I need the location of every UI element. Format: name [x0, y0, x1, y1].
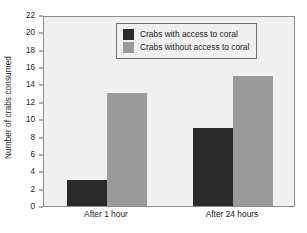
y-axis-tick-label: 12: [26, 99, 35, 107]
y-axis-tick-label: 18: [26, 47, 35, 55]
legend-swatch-dark: [123, 29, 134, 40]
x-axis-tick-labels: After 1 hourAfter 24 hours: [43, 210, 295, 226]
y-axis-title: Number of crabs consumed: [0, 0, 16, 215]
legend-item: Crabs with access to coral: [123, 28, 249, 41]
y-axis-tick-label: 22: [26, 12, 35, 20]
x-axis-tick-label: After 1 hour: [84, 210, 128, 218]
y-axis-tick-label: 6: [30, 151, 35, 159]
chart-legend: Crabs with access to coral Crabs without…: [116, 23, 257, 59]
y-axis-tick-label: 14: [26, 81, 35, 89]
y-axis-tick-label: 4: [30, 168, 35, 176]
y-axis-tick-label: 2: [30, 186, 35, 194]
legend-swatch-gray: [123, 42, 134, 53]
legend-label: Crabs without access to coral: [140, 43, 249, 51]
bar: [107, 93, 147, 206]
y-axis-tick-label: 0: [30, 203, 35, 211]
y-axis-title-text: Number of crabs consumed: [4, 56, 13, 159]
y-axis-tick-label: 10: [26, 116, 35, 124]
plot-area: Crabs with access to coral Crabs without…: [43, 16, 295, 207]
bar: [193, 128, 233, 206]
bar: [233, 76, 273, 206]
y-axis-tick-label: 8: [30, 133, 35, 141]
legend-item: Crabs without access to coral: [123, 41, 249, 54]
bar: [67, 180, 107, 206]
bar-chart: Number of crabs consumed 024681012141618…: [0, 0, 307, 233]
y-axis-tick-label: 16: [26, 64, 35, 72]
x-axis-tick-label: After 24 hours: [206, 210, 259, 218]
y-axis-tick-labels: 0246810121416182022: [16, 16, 37, 207]
y-axis-tick-label: 20: [26, 29, 35, 37]
legend-label: Crabs with access to coral: [140, 30, 238, 38]
